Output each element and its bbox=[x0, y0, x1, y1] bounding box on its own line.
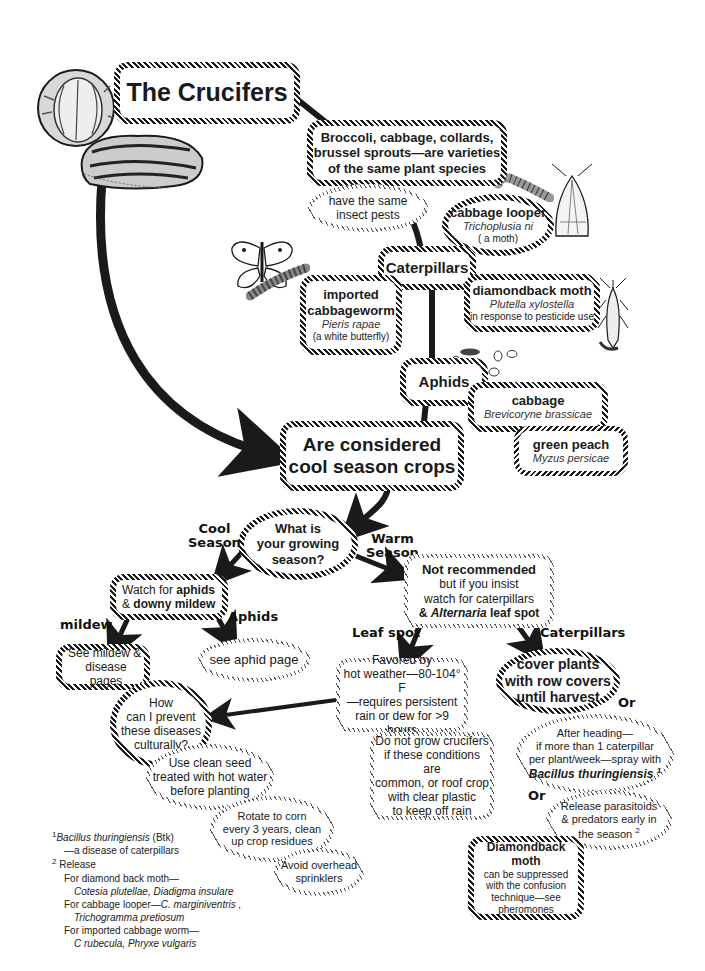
fn2-item-2-label: For cabbage looper—C. marginiventris , bbox=[52, 898, 272, 911]
diamondback-moth-box: diamondback moth Plutella xylostella in … bbox=[464, 274, 600, 332]
footnote-ref-1: 1 bbox=[657, 766, 661, 775]
do-not-grow-line-4: with clear plastic bbox=[388, 790, 476, 804]
crucifers-flowchart: The Crucifers Broccoli, cabbage, collard… bbox=[0, 0, 705, 971]
after-heading-line-3: per plant/week—spray with bbox=[529, 753, 661, 766]
fn2-item-1-label: For diamond back moth— bbox=[52, 872, 272, 885]
not-recommended-box: Not recommended but if you insist watch … bbox=[404, 554, 554, 628]
do-not-grow-line-3: common, or roof crop bbox=[375, 776, 489, 790]
fn2-item-2-inline: C. marginiventris , bbox=[161, 899, 242, 910]
fn1-line-2: —a disease of caterpillars bbox=[52, 844, 272, 857]
see-aphid-page-oval: see aphid page bbox=[198, 638, 310, 682]
green-peach-sci: Myzus persicae bbox=[533, 452, 609, 465]
see-aphid-page-link[interactable]: see aphid page bbox=[210, 652, 299, 667]
cool-season-line-1: Are considered bbox=[303, 434, 441, 456]
growing-season-line-2: your growing bbox=[257, 536, 339, 551]
cool-season-crops-box: Are considered cool season crops bbox=[280, 421, 464, 491]
aphids-label: Aphids bbox=[419, 373, 470, 391]
cabbageworm-sci: Pieris rapae bbox=[322, 318, 381, 331]
release-line-2: & predators early in bbox=[561, 813, 656, 826]
varieties-line-3: of the same plant species bbox=[328, 161, 486, 176]
release-line-3: the season 2 bbox=[578, 826, 639, 841]
varieties-box: Broccoli, cabbage, collards, brussel spr… bbox=[307, 120, 507, 186]
after-heading-oval: After heading— if more than 1 caterpilla… bbox=[516, 714, 674, 794]
same-pests-oval: have the same insect pests bbox=[308, 184, 428, 232]
confusion-title: Diamondback moth bbox=[474, 840, 578, 868]
cabbageworm-note: (a white butterfly) bbox=[313, 331, 390, 343]
edge-label-cool-season: Cool Season bbox=[188, 522, 241, 551]
clean-seed-line-1: Use clean seed bbox=[169, 756, 252, 770]
edge-label-aphids: Aphids bbox=[228, 610, 278, 624]
fn2-title: Release bbox=[59, 860, 96, 871]
avoid-overhead-oval: Avoid overhead sprinklers bbox=[274, 848, 364, 896]
watch-bold-aphids: aphids bbox=[176, 583, 215, 597]
diamondback-moth-icon bbox=[596, 276, 630, 352]
favored-by-box: Favored by hot weather—80-104° F —requir… bbox=[336, 658, 468, 732]
avoid-line-2: sprinklers bbox=[295, 872, 342, 885]
prevent-line-1: How bbox=[149, 696, 173, 710]
cover-line-3: until harvest bbox=[516, 689, 599, 706]
diamondback-name: diamondback moth bbox=[472, 283, 591, 298]
not-rec-line-3: watch for caterpillars bbox=[424, 592, 534, 606]
title-box: The Crucifers bbox=[114, 62, 300, 124]
cabbage-looper-note: ( a moth) bbox=[478, 233, 518, 245]
do-not-grow-line-5: to keep off rain bbox=[392, 804, 471, 818]
confusion-line-3: technique—see bbox=[491, 892, 561, 904]
cabbage-looper-sci: Trichoplusia ni bbox=[463, 220, 533, 233]
same-pests-line-1: have the same bbox=[329, 194, 408, 208]
favored-line-2: hot weather—80-104° F bbox=[340, 667, 464, 695]
do-not-grow-line-2: if these conditions are bbox=[374, 748, 490, 776]
clean-seed-line-3: before planting bbox=[170, 784, 249, 798]
edge-label-or-1: Or bbox=[618, 696, 635, 710]
watch-bold-mildew: downy mildew bbox=[133, 597, 215, 611]
varieties-line-2: brussel sprouts—are varieties bbox=[314, 145, 500, 160]
cover-line-1: cover plants bbox=[517, 656, 599, 673]
not-rec-line-4: & Alternaria leaf spot bbox=[419, 606, 540, 620]
avoid-line-1: Avoid overhead bbox=[281, 859, 357, 872]
fn2-item-3-species: C rubecula, Phryxe vulgaris bbox=[52, 937, 272, 950]
footnote-2: 2 Release bbox=[52, 857, 272, 871]
same-pests-line-2: insect pests bbox=[336, 208, 399, 222]
footnote-1: 1Bacillus thuringiensis (Btk) bbox=[52, 830, 272, 844]
fn2-item-1-species: Cotesia plutellae, Diadigma insulare bbox=[52, 885, 272, 898]
caterpillars-label: Caterpillars bbox=[386, 259, 469, 277]
not-rec-line-2: but if you insist bbox=[439, 577, 518, 591]
watch-line-2: & downy mildew bbox=[122, 597, 215, 611]
edge-label-leaf-spot: Leaf spot bbox=[352, 626, 420, 640]
fn2-item-3-label: For imported cabbage worm— bbox=[52, 924, 272, 937]
do-not-grow-box: Do not grow crucifers if these condition… bbox=[370, 732, 494, 820]
after-heading-line-2: if more than 1 caterpillar bbox=[536, 740, 654, 753]
prevent-line-3: these diseases bbox=[121, 724, 201, 738]
release-line-1: Release parasitoids bbox=[561, 800, 658, 813]
do-not-grow-line-1: Do not grow crucifers bbox=[375, 734, 488, 748]
confusion-pheromones-link[interactable]: pheromones bbox=[498, 904, 554, 916]
varieties-line-1: Broccoli, cabbage, collards, bbox=[321, 130, 494, 145]
fn1-ital: Bacillus thuringiensis bbox=[56, 832, 149, 843]
chinese-cabbage-icon bbox=[78, 130, 208, 192]
diamondback-confusion-box: Diamondback moth can be suppressed with … bbox=[468, 836, 584, 920]
see-mildew-link[interactable]: See mildew & bbox=[68, 646, 141, 660]
see-mildew-box: See mildew & disease pages bbox=[56, 644, 150, 690]
warm-label-1: Warm bbox=[366, 532, 419, 546]
footnotes: 1Bacillus thuringiensis (Btk) —a disease… bbox=[52, 830, 272, 950]
green-peach-aphid-box: green peach Myzus persicae bbox=[514, 426, 628, 476]
after-heading-line-1: After heading— bbox=[557, 727, 633, 740]
page-title: The Crucifers bbox=[126, 78, 287, 108]
growing-season-oval: What is your growing season? bbox=[238, 508, 358, 580]
fn2-marker: 2 bbox=[52, 857, 56, 866]
green-peach-name: green peach bbox=[533, 437, 610, 452]
see-disease-link[interactable]: disease pages bbox=[68, 660, 144, 688]
imported-cabbageworm-box: imported cabbageworm Pieris rapae (a whi… bbox=[300, 275, 402, 355]
watch-prefix-1: Watch for bbox=[122, 583, 176, 597]
fn2-item-2-species: Trichogramma pretiosum bbox=[52, 911, 272, 924]
clean-seed-line-2: treated with hot water bbox=[153, 770, 268, 784]
confusion-line-2: with the confusion bbox=[486, 880, 566, 892]
cover-line-2: with row covers bbox=[505, 673, 611, 690]
not-rec-title: Not recommended bbox=[422, 562, 536, 577]
growing-season-line-1: What is bbox=[275, 521, 321, 536]
release-line-3-text: the season bbox=[578, 827, 632, 839]
favored-line-3: —requires persistent bbox=[347, 695, 458, 709]
edge-label-caterpillars: Caterpillars bbox=[540, 626, 625, 640]
favored-line-1: Favored by bbox=[372, 653, 432, 667]
cabbage-aphid-box: cabbage Brevicoryne brassicae bbox=[468, 382, 608, 432]
cool-label-1: Cool bbox=[188, 522, 241, 536]
